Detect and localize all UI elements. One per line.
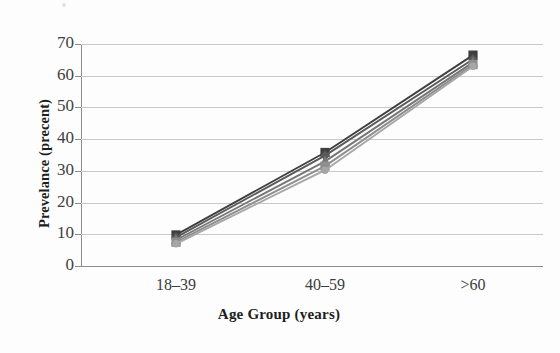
x-tick-label-2: >60	[460, 276, 485, 294]
gridline-10	[81, 234, 543, 235]
gridline-70	[81, 44, 543, 45]
y-tick-70	[75, 44, 81, 45]
y-tick-label-20: 20	[57, 192, 74, 212]
x-tick-label-0: 18–39	[156, 276, 196, 294]
y-tick-label-60: 60	[57, 65, 74, 85]
x-axis-title-wrap: Age Group (years)	[0, 306, 560, 323]
scan-artifact-speck	[62, 3, 66, 7]
gridline-20	[81, 203, 543, 204]
chart-figure: Prevelance (precent) 010203040506070 Age…	[0, 0, 560, 353]
y-tick-label-50: 50	[57, 97, 74, 117]
y-tick-30	[75, 171, 81, 172]
gridline-40	[81, 139, 543, 140]
y-tick-label-10: 10	[57, 224, 74, 244]
y-tick-label-70: 70	[57, 33, 74, 53]
y-tick-20	[75, 203, 81, 204]
y-tick-label-40: 40	[57, 129, 74, 149]
y-tick-60	[75, 76, 81, 77]
gridline-60	[81, 76, 543, 77]
y-tick-40	[75, 139, 81, 140]
y-tick-50	[75, 107, 81, 108]
y-tick-0	[75, 266, 81, 267]
gridline-0	[81, 266, 543, 267]
y-tick-label-0: 0	[66, 255, 75, 275]
x-tick-label-1: 40–59	[305, 276, 345, 294]
gridline-30	[81, 171, 543, 172]
x-axis-title: Age Group (years)	[218, 306, 340, 323]
plot-area: 010203040506070	[81, 44, 543, 266]
y-axis-title: Prevelance (precent)	[36, 44, 53, 284]
y-tick-label-30: 30	[57, 160, 74, 180]
gridline-50	[81, 107, 543, 108]
y-tick-10	[75, 234, 81, 235]
